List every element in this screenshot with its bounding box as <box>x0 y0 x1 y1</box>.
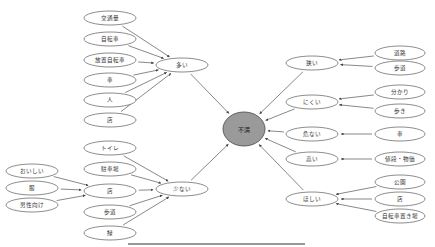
node-label: 車 <box>107 76 113 84</box>
node-label: おいしい <box>20 168 44 174</box>
node-l4: 車 <box>84 73 136 87</box>
node-label: 緑 <box>107 229 113 236</box>
node-ooi: 多い <box>156 58 208 72</box>
node-r4: 歩き <box>375 104 425 118</box>
node-label: 自転車置き場 <box>382 212 418 220</box>
node-r2: 歩道 <box>375 61 425 75</box>
arrow-r1-to-semai <box>339 56 374 60</box>
node-label: 店 <box>107 116 113 124</box>
node-hoshii: ほしい <box>286 192 338 206</box>
arrow-r3-to-nikui <box>339 95 374 99</box>
node-label: 値段・物価 <box>385 155 415 163</box>
arrow-r4-to-nikui <box>339 105 373 109</box>
arrow-m2-to-sukunai <box>131 175 161 183</box>
node-label: 男性向け <box>20 201 44 209</box>
node-m2: 駐車場 <box>84 162 136 176</box>
node-label: 高い <box>306 155 318 163</box>
node-label: 多い <box>176 61 188 69</box>
node-m4: 歩道 <box>84 205 136 219</box>
node-label: 駐車場 <box>101 165 119 173</box>
arrow-l4-to-ooi <box>133 70 158 75</box>
node-r1: 道路 <box>375 46 425 60</box>
arrow-abunai-to-c <box>268 131 284 132</box>
node-label: 道路 <box>394 49 406 57</box>
node-label: 人 <box>107 97 113 103</box>
node-r5: 車 <box>375 127 425 141</box>
arrow-f2-to-m3 <box>61 189 82 190</box>
node-r6: 値段・物価 <box>375 152 425 166</box>
node-label: 店 <box>397 195 403 203</box>
arrow-nikui-to-c <box>266 109 295 121</box>
node-m1: トイレ <box>84 141 136 155</box>
node-r8: 店 <box>375 192 425 206</box>
center-node: 不満 <box>223 112 265 146</box>
node-label: 交通量 <box>101 14 119 22</box>
node-abunai: 危ない <box>286 127 338 141</box>
node-l2: 自転車 <box>84 32 136 46</box>
arrow-takai-to-c <box>265 138 296 151</box>
arrow-ooi-to-c <box>191 74 229 114</box>
node-label: 歩道 <box>394 64 406 72</box>
arrow-hoshii-to-c <box>259 145 303 191</box>
node-label: 分かり <box>391 88 409 96</box>
node-m5: 緑 <box>84 226 136 240</box>
node-f1: おいしい <box>6 164 58 178</box>
node-label: 危ない <box>303 130 321 138</box>
arrow-f3-to-m3 <box>57 195 86 200</box>
node-l6: 店 <box>84 113 136 127</box>
node-r3: 分かり <box>375 85 425 99</box>
node-label: 車 <box>397 130 403 138</box>
node-label: 狭い <box>306 59 318 67</box>
node-layer: 不満多い少ない狭いにくい危ない高いほしい交通量自転車放置自転車車人店トイレ駐車場… <box>6 11 425 240</box>
cause-map-diagram: 不満多い少ない狭いにくい危ない高いほしい交通量自転車放置自転車車人店トイレ駐車場… <box>0 0 435 247</box>
node-label: 公園 <box>394 179 406 186</box>
node-sukunai: 少ない <box>156 182 208 196</box>
node-label: 服 <box>29 185 35 192</box>
node-l3: 放置自転車 <box>84 53 136 67</box>
node-label: 歩き <box>394 107 406 115</box>
node-label: 自転車 <box>101 35 119 43</box>
node-r9: 自転車置き場 <box>375 209 425 223</box>
arrow-f1-to-m3 <box>54 177 89 186</box>
node-label: 少ない <box>173 186 191 192</box>
node-l1: 交通量 <box>84 11 136 25</box>
arrow-sukunai-to-c <box>191 144 228 180</box>
node-nikui: にくい <box>286 95 338 109</box>
node-label: にくい <box>303 99 321 105</box>
node-m3: 店 <box>84 184 136 198</box>
node-label: トイレ <box>101 145 119 151</box>
node-f3: 男性向け <box>6 198 58 212</box>
node-l5: 人 <box>84 93 136 107</box>
arrow-r7-to-hoshii <box>336 187 376 195</box>
arrow-l3-to-ooi <box>138 62 154 63</box>
node-semai: 狭い <box>286 56 338 70</box>
node-label: 店 <box>107 187 113 195</box>
node-label: 放置自転車 <box>95 56 125 64</box>
node-r7: 公園 <box>375 175 425 189</box>
arrow-r2-to-semai <box>340 65 372 67</box>
node-label: 歩道 <box>104 208 116 216</box>
node-f2: 服 <box>6 181 58 195</box>
arrow-l2-to-ooi <box>128 46 163 59</box>
node-label: 不満 <box>238 126 250 134</box>
node-takai: 高い <box>286 152 338 166</box>
arrow-r9-to-hoshii <box>336 204 376 212</box>
node-label: ほしい <box>303 196 321 203</box>
